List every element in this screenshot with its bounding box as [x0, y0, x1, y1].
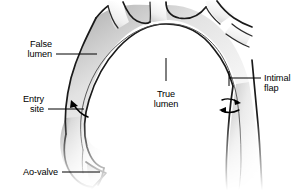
label-intimal-flap-line2: flap [264, 83, 278, 93]
left-carotid-fill [150, 1, 167, 22]
label-false-lumen-line2: lumen [27, 49, 52, 59]
label-false-lumen-line1: False [30, 39, 52, 49]
label-true-lumen-line2: lumen [154, 99, 179, 109]
label-intimal-flap-line1: Intimal [264, 73, 290, 83]
label-ao-valve: Ao-valve [23, 167, 58, 177]
descending-aorta-fill [228, 82, 262, 190]
label-entry-site-line1: Entry [23, 94, 44, 104]
diagram-canvas: False lumen Entry site Ao-valve True lum… [0, 0, 303, 190]
aortic-dissection-figure: False lumen Entry site Ao-valve True lum… [0, 0, 303, 190]
label-true-lumen-line1: True [157, 89, 175, 99]
flap-flow-arrow-lower-head [219, 107, 226, 113]
label-entry-site-line2: site [30, 104, 44, 114]
